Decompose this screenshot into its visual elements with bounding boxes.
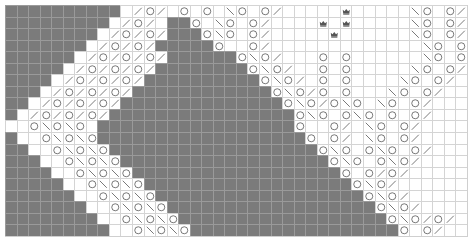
chart-cell-knit <box>328 51 340 63</box>
chart-cell-no-stitch <box>213 51 225 63</box>
chart-cell-yarn-over <box>247 40 259 52</box>
chart-cell-knit <box>444 109 456 121</box>
chart-cell-yarn-over <box>109 155 121 167</box>
chart-cell-knit <box>97 201 109 213</box>
chart-cell-no-stitch <box>74 28 86 40</box>
chart-cell-ssk <box>305 109 317 121</box>
chart-cell-no-stitch <box>155 63 167 75</box>
chart-cell-no-stitch <box>247 144 259 156</box>
chart-cell-no-stitch <box>86 28 98 40</box>
ssk-icon <box>364 133 375 144</box>
chart-cell-no-stitch <box>167 109 179 121</box>
chart-cell-no-stitch <box>167 132 179 144</box>
yarn-over-icon <box>352 156 363 167</box>
ssk-icon <box>341 156 352 167</box>
yarn-over-icon <box>422 29 433 40</box>
k2tog-icon <box>145 64 156 75</box>
chart-cell-k2tog <box>409 201 421 213</box>
yarn-over-icon <box>341 75 352 86</box>
chart-cell-knit <box>398 17 410 29</box>
chart-cell-knit <box>432 178 444 190</box>
yarn-over-icon <box>329 133 340 144</box>
chart-cell-knit <box>51 74 63 86</box>
chart-cell-no-stitch <box>259 86 271 98</box>
chart-cell-ssk <box>144 224 156 236</box>
chart-cell-no-stitch <box>144 155 156 167</box>
chart-cell-no-stitch <box>28 51 40 63</box>
chart-cell-knit <box>317 40 329 52</box>
chart-cell-no-stitch <box>224 63 236 75</box>
chart-cell-no-stitch <box>201 63 213 75</box>
chart-cell-yarn-over <box>432 74 444 86</box>
yarn-over-icon <box>422 225 433 236</box>
chart-cell-no-stitch <box>271 109 283 121</box>
chart-cell-yarn-over <box>340 74 352 86</box>
yarn-over-icon <box>341 52 352 63</box>
yarn-over-icon <box>179 6 190 17</box>
chart-cell-yarn-over <box>144 28 156 40</box>
k2tog-icon <box>422 110 433 121</box>
chart-cell-yarn-over <box>271 63 283 75</box>
ssk-icon <box>410 29 421 40</box>
chart-cell-knit <box>294 17 306 29</box>
chart-cell-knit <box>282 17 294 29</box>
chart-cell-ssk <box>109 167 121 179</box>
chart-cell-no-stitch <box>224 144 236 156</box>
chart-cell-yarn-over <box>144 5 156 17</box>
chart-cell-k2tog <box>74 63 86 75</box>
chart-cell-yarn-over <box>86 109 98 121</box>
chart-cell-no-stitch <box>224 155 236 167</box>
chart-cell-no-stitch <box>328 190 340 202</box>
yarn-over-icon <box>387 110 398 121</box>
chart-cell-yarn-over <box>178 5 190 17</box>
chart-cell-k2tog <box>305 86 317 98</box>
chart-cell-yarn-over <box>74 74 86 86</box>
chart-cell-no-stitch <box>63 201 75 213</box>
chart-cell-no-stitch <box>213 63 225 75</box>
k2tog-icon <box>410 156 421 167</box>
yarn-over-icon <box>445 64 456 75</box>
chart-cell-yarn-over <box>340 51 352 63</box>
chart-cell-knit <box>74 178 86 190</box>
k2tog-icon <box>456 64 467 75</box>
yarn-over-icon <box>387 214 398 225</box>
chart-cell-ssk <box>132 190 144 202</box>
chart-cell-no-stitch <box>201 167 213 179</box>
yarn-over-icon <box>376 202 387 213</box>
chart-cell-yarn-over <box>144 213 156 225</box>
chart-cell-no-stitch <box>40 63 52 75</box>
ssk-icon <box>283 87 294 98</box>
chart-cell-no-stitch <box>40 190 52 202</box>
k2tog-icon <box>98 87 109 98</box>
chart-cell-yarn-over <box>305 97 317 109</box>
ssk-icon <box>306 110 317 121</box>
yarn-over-icon <box>318 145 329 156</box>
chart-cell-no-stitch <box>190 51 202 63</box>
chart-cell-knit <box>351 86 363 98</box>
chart-cell-no-stitch <box>5 51 17 63</box>
chart-cell-k2tog <box>421 109 433 121</box>
chart-cell-no-stitch <box>236 178 248 190</box>
k2tog-icon <box>422 214 433 225</box>
chart-cell-no-stitch <box>213 120 225 132</box>
chart-cell-knit <box>421 155 433 167</box>
chart-cell-knit <box>455 201 467 213</box>
chart-cell-no-stitch <box>236 132 248 144</box>
yarn-over-icon <box>364 110 375 121</box>
chart-cell-knit <box>28 97 40 109</box>
ssk-icon <box>110 168 121 179</box>
chart-cell-no-stitch <box>190 213 202 225</box>
ssk-icon <box>329 145 340 156</box>
chart-cell-no-stitch <box>190 155 202 167</box>
ssk-icon <box>156 214 167 225</box>
chart-cell-k2tog <box>120 17 132 29</box>
yarn-over-icon <box>75 145 86 156</box>
chart-cell-ssk <box>40 120 52 132</box>
chart-cell-yarn-over <box>294 120 306 132</box>
k2tog-icon <box>283 64 294 75</box>
ssk-icon <box>214 29 225 40</box>
chart-cell-yarn-over <box>363 190 375 202</box>
chart-cell-no-stitch <box>5 109 17 121</box>
chart-cell-no-stitch <box>74 224 86 236</box>
chart-cell-no-stitch <box>224 213 236 225</box>
